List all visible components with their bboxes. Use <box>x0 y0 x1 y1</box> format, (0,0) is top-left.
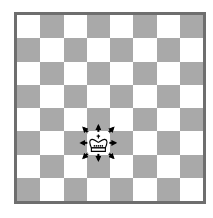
board-square[interactable] <box>157 38 180 61</box>
board-square[interactable] <box>133 178 156 201</box>
board-square[interactable] <box>64 178 87 201</box>
board-square[interactable] <box>87 155 110 178</box>
board-square[interactable] <box>40 108 63 131</box>
board-square[interactable] <box>157 62 180 85</box>
board-square[interactable] <box>110 62 133 85</box>
board-square[interactable] <box>17 62 40 85</box>
board-square[interactable] <box>180 155 203 178</box>
board-square[interactable] <box>40 85 63 108</box>
board-square[interactable] <box>64 38 87 61</box>
board-square[interactable] <box>180 38 203 61</box>
board-square[interactable] <box>180 85 203 108</box>
board-square[interactable] <box>110 178 133 201</box>
board-square[interactable] <box>87 178 110 201</box>
board-square[interactable] <box>64 85 87 108</box>
board-square[interactable] <box>87 38 110 61</box>
board-square[interactable] <box>133 15 156 38</box>
board-square[interactable] <box>64 108 87 131</box>
board-square[interactable] <box>17 108 40 131</box>
board-square[interactable] <box>87 62 110 85</box>
board-square[interactable] <box>157 108 180 131</box>
board-square[interactable] <box>157 85 180 108</box>
chessboard <box>14 12 206 204</box>
board-square[interactable] <box>133 38 156 61</box>
board-square[interactable] <box>157 15 180 38</box>
board-square[interactable] <box>133 62 156 85</box>
board-square[interactable] <box>180 178 203 201</box>
board-square[interactable] <box>133 155 156 178</box>
board-square[interactable] <box>180 108 203 131</box>
board-square[interactable] <box>17 38 40 61</box>
board-square[interactable] <box>180 15 203 38</box>
board-square[interactable] <box>17 155 40 178</box>
board-square[interactable] <box>110 85 133 108</box>
board-square[interactable] <box>17 131 40 154</box>
board-square[interactable] <box>17 15 40 38</box>
board-square[interactable] <box>64 155 87 178</box>
board-square[interactable] <box>64 62 87 85</box>
board-square[interactable] <box>87 108 110 131</box>
board-square[interactable] <box>110 108 133 131</box>
board-square[interactable] <box>180 131 203 154</box>
board-square[interactable] <box>64 131 87 154</box>
board-square[interactable] <box>17 85 40 108</box>
board-square[interactable] <box>110 38 133 61</box>
board-square[interactable] <box>87 85 110 108</box>
board-square[interactable] <box>40 131 63 154</box>
board-square[interactable] <box>157 131 180 154</box>
board-square[interactable] <box>87 15 110 38</box>
board-square[interactable] <box>110 155 133 178</box>
board-square[interactable] <box>64 15 87 38</box>
board-square[interactable] <box>133 85 156 108</box>
board-square[interactable] <box>157 155 180 178</box>
board-square[interactable] <box>180 62 203 85</box>
board-square[interactable] <box>133 131 156 154</box>
board-square[interactable] <box>40 15 63 38</box>
board-square[interactable] <box>157 178 180 201</box>
board-square[interactable] <box>40 178 63 201</box>
board-square[interactable] <box>40 38 63 61</box>
board-square[interactable] <box>17 178 40 201</box>
board-square[interactable] <box>87 131 110 154</box>
board-square[interactable] <box>40 155 63 178</box>
board-square[interactable] <box>40 62 63 85</box>
board-square[interactable] <box>110 131 133 154</box>
board-square[interactable] <box>110 15 133 38</box>
board-square[interactable] <box>133 108 156 131</box>
